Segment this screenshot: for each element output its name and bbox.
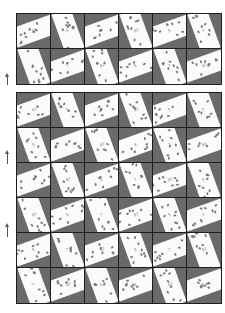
landscape-band: 87 <box>17 14 51 47</box>
speckle <box>34 156 38 159</box>
speckle <box>175 179 179 182</box>
portrait-band: 7 <box>153 49 186 84</box>
pattern-tile: 5 <box>17 128 51 163</box>
pattern-tile: 87 <box>119 198 153 233</box>
speckle <box>43 179 46 182</box>
pattern-block-top: 8757875757875787 <box>16 13 220 84</box>
speckle <box>21 198 23 201</box>
speckle <box>188 148 191 150</box>
speckle <box>35 70 38 74</box>
landscape-band: 5 <box>119 49 153 82</box>
band-mark: 5 <box>99 178 103 183</box>
pattern-tile: 7 <box>85 198 119 233</box>
speckle <box>35 255 39 258</box>
speckle <box>26 50 30 53</box>
band-mark: 87 <box>133 28 139 34</box>
speckle <box>127 27 129 30</box>
speckle <box>111 108 114 111</box>
band-mark: 7 <box>99 108 103 113</box>
speckle <box>71 115 74 118</box>
speckle <box>101 114 104 116</box>
speckle <box>91 55 94 59</box>
speckle <box>214 210 217 213</box>
speckle <box>130 147 132 150</box>
speckle <box>126 65 130 68</box>
speckle <box>80 209 83 213</box>
speckle <box>171 184 175 187</box>
speckle <box>125 74 127 77</box>
speckle <box>161 175 165 178</box>
portrait-band: 5 <box>85 268 118 303</box>
pattern-tile: 87 <box>17 93 51 128</box>
speckle <box>175 222 178 224</box>
portrait-band: 7 <box>17 268 50 303</box>
speckle <box>172 105 174 108</box>
speckle <box>166 290 170 294</box>
speckle <box>153 259 157 262</box>
speckle <box>104 149 107 152</box>
speckle <box>134 236 137 239</box>
band-mark: 7 <box>65 143 69 148</box>
speckle <box>65 169 68 173</box>
speckle <box>172 64 175 67</box>
speckle <box>158 177 161 181</box>
speckle <box>144 137 146 140</box>
speckle <box>168 272 172 275</box>
portrait-band: 87 <box>153 268 186 303</box>
portrait-band: 7 <box>119 163 152 198</box>
speckle <box>37 145 40 149</box>
speckle <box>140 253 142 256</box>
pattern-tile: 5 <box>187 163 221 198</box>
speckle <box>166 203 169 207</box>
speckle <box>141 248 144 251</box>
speckle <box>43 294 47 297</box>
speckle <box>170 228 173 231</box>
speckle <box>154 251 157 253</box>
portrait-band: 5 <box>17 128 50 163</box>
speckle <box>65 264 68 266</box>
speckle <box>24 257 27 260</box>
speckle <box>62 61 64 64</box>
pattern-tile: 7 <box>187 14 221 49</box>
speckle <box>205 177 209 180</box>
speckle <box>23 32 26 35</box>
speckle <box>144 148 148 151</box>
speckle <box>41 290 45 293</box>
speckle <box>177 78 180 82</box>
pattern-tile: 87 <box>51 268 85 303</box>
speckle <box>119 212 122 216</box>
speckle <box>39 168 43 171</box>
speckle <box>115 168 118 170</box>
band-mark: 7 <box>167 143 171 148</box>
speckle <box>51 68 53 72</box>
speckle <box>115 21 118 25</box>
speckle <box>130 256 133 258</box>
speckle <box>105 277 109 280</box>
pattern-tile: 87 <box>187 128 221 163</box>
pattern-tile: 5 <box>119 49 153 84</box>
band-mark: 5 <box>167 108 171 113</box>
speckle <box>195 63 198 66</box>
band-mark: 5 <box>65 108 69 113</box>
speckle <box>100 51 104 54</box>
speckle <box>34 136 37 140</box>
speckle <box>168 129 171 131</box>
speckle <box>174 210 177 213</box>
speckle <box>139 208 142 212</box>
speckle <box>109 175 113 178</box>
band-mark: 5 <box>133 64 137 69</box>
band-mark: 5 <box>31 248 35 253</box>
speckle <box>197 144 199 147</box>
band-mark: 5 <box>133 248 137 253</box>
speckle <box>23 207 27 211</box>
band-mark: 87 <box>99 142 105 148</box>
arrow-up-icon <box>7 153 8 164</box>
band-mark: 5 <box>65 29 69 34</box>
pattern-tile: 87 <box>187 233 221 268</box>
band-mark: 7 <box>31 283 35 288</box>
speckle <box>135 163 138 166</box>
speckle <box>32 271 35 273</box>
speckle <box>132 261 135 265</box>
speckle <box>62 102 65 106</box>
band-mark: 7 <box>99 29 103 34</box>
